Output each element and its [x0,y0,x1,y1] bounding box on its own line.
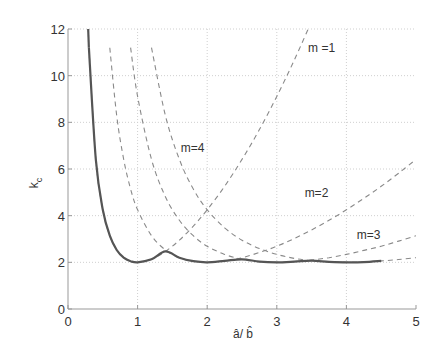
svg-text:kc: kc [27,177,44,188]
y-tick-label: 12 [51,22,65,37]
annotation-m2: m=2 [305,186,329,200]
annotation-m3: m=3 [357,228,381,242]
x-tick-label: 2 [204,314,211,329]
x-tick-label: 5 [412,314,419,329]
curve-annotations: m =1m=4m=2m=3 [181,41,381,242]
x-tick-label: 3 [273,314,280,329]
y-tick-label: 10 [51,69,65,84]
buckling-coefficient-chart: 012345024681012 m =1m=4m=2m=3 â/ b̂ kc [0,0,438,359]
x-axis-label: â/ b̂ [233,326,253,341]
grid-lines [68,29,416,309]
x-tick-label: 0 [64,314,71,329]
y-axis-label: kc [27,177,44,188]
annotation-m4: m=4 [181,141,205,155]
y-tick-label: 4 [58,209,65,224]
annotation-m1: m =1 [308,41,335,55]
x-tick-label: 4 [343,314,350,329]
y-tick-label: 6 [58,162,65,177]
y-tick-label: 0 [58,302,65,317]
envelope-curve-top [88,29,89,48]
y-tick-label: 2 [58,255,65,270]
curves [88,21,416,262]
tick-labels: 012345024681012 [51,22,420,329]
x-tick-label: 1 [134,314,141,329]
y-tick-label: 8 [58,115,65,130]
y-axis-label-sub: c [34,177,44,182]
envelope-curve [89,48,381,263]
